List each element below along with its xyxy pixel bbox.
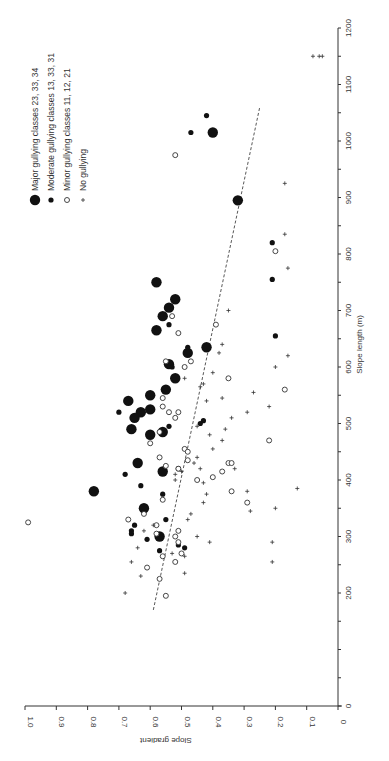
minor-gullying-marker xyxy=(141,511,146,516)
minor-gullying-marker xyxy=(163,359,168,364)
minor-gullying-marker xyxy=(148,441,153,446)
minor-gullying-marker xyxy=(154,531,159,536)
moderate-gullying-marker xyxy=(270,277,275,282)
minor-gullying-marker xyxy=(176,410,181,415)
minor-gullying-marker xyxy=(173,153,178,158)
moderate-gullying-marker xyxy=(204,113,209,118)
no-gullying-marker xyxy=(195,455,199,459)
legend-label: Major gullying classes 23, 33, 34 xyxy=(30,67,40,191)
x-axis-label: Slope length (m) xyxy=(355,315,364,374)
no-gullying-marker xyxy=(286,266,290,270)
minor-gullying-marker xyxy=(157,429,162,434)
minor-gullying-marker xyxy=(176,540,181,545)
x-tick-label: 1200 xyxy=(344,19,353,37)
major-gullying-marker xyxy=(201,342,211,352)
no-gullying-marker xyxy=(189,512,193,516)
major-gullying-marker xyxy=(30,195,40,205)
minor-gullying-marker xyxy=(220,469,225,474)
x-tick-label: 800 xyxy=(344,247,353,261)
moderate-gullying-marker xyxy=(182,545,187,550)
minor-gullying-marker xyxy=(176,466,181,471)
no-gullying-marker xyxy=(233,467,237,471)
x-tick-label: 900 xyxy=(344,190,353,204)
minor-gullying-marker xyxy=(185,458,190,463)
no-gullying-marker xyxy=(173,472,177,476)
legend-label: No gullying xyxy=(78,149,88,191)
minor-gullying-marker xyxy=(182,365,187,370)
x-tick-label: 1000 xyxy=(344,132,353,150)
minor-gullying-marker xyxy=(173,415,178,420)
no-gullying-marker xyxy=(311,54,315,58)
x-tick-label: 700 xyxy=(344,303,353,317)
moderate-gullying-marker xyxy=(273,333,278,338)
no-gullying-marker xyxy=(195,535,199,539)
legend-label: Moderate gullying classes 13, 33, 31 xyxy=(46,53,56,191)
moderate-gullying-marker xyxy=(129,531,134,536)
major-gullying-marker xyxy=(129,413,139,423)
minor-gullying-marker xyxy=(282,387,287,392)
moderate-gullying-marker xyxy=(198,421,203,426)
minor-gullying-marker xyxy=(267,438,272,443)
axes: 0200300400500600700800900100011001200Slo… xyxy=(25,19,364,745)
major-gullying-marker xyxy=(145,430,155,440)
minor-gullying-marker xyxy=(170,314,175,319)
minor-gullying-marker xyxy=(213,322,218,327)
y-tick-label: 0.6 xyxy=(151,716,160,728)
minor-gullying-marker xyxy=(160,554,165,559)
no-gullying-marker xyxy=(220,396,224,400)
no-gullying-marker xyxy=(186,518,190,522)
scatter-chart: 0200300400500600700800900100011001200Slo… xyxy=(0,0,389,761)
no-gullying-marker xyxy=(123,591,127,595)
moderate-gullying-marker xyxy=(185,345,190,350)
y-tick-label: 0.7 xyxy=(120,716,129,728)
y-tick-label: 0.9 xyxy=(57,716,66,728)
major-gullying-marker xyxy=(132,458,142,468)
no-gullying-marker xyxy=(173,478,177,482)
no-gullying-marker xyxy=(220,342,224,346)
y-tick-label: 0.5 xyxy=(183,716,192,728)
no-gullying-marker xyxy=(320,54,324,58)
major-gullying-marker xyxy=(123,396,133,406)
major-gullying-marker xyxy=(170,373,180,383)
minor-gullying-marker xyxy=(210,475,215,480)
minor-gullying-marker xyxy=(163,463,168,468)
no-gullying-marker xyxy=(136,546,140,550)
trend-line xyxy=(153,107,259,610)
no-gullying-marker xyxy=(129,560,133,564)
minor-gullying-marker xyxy=(160,396,165,401)
no-gullying-marker xyxy=(283,232,287,236)
minor-gullying-marker xyxy=(157,455,162,460)
minor-gullying-marker xyxy=(273,249,278,254)
legend: Major gullying classes 23, 33, 34Moderat… xyxy=(30,53,88,205)
no-gullying-marker xyxy=(220,438,224,442)
major-gullying-marker xyxy=(145,404,155,414)
no-gullying-marker xyxy=(251,390,255,394)
x-tick-label: 1100 xyxy=(344,75,353,93)
x-tick-label: 0 xyxy=(344,703,353,708)
y-axis-label: Slope gradient xyxy=(139,736,191,745)
minor-gullying-marker xyxy=(65,198,70,203)
x-tick-label: 300 xyxy=(344,529,353,543)
no-gullying-marker xyxy=(183,571,187,575)
y-tick-label: 0.1 xyxy=(308,716,317,728)
minor-gullying-marker xyxy=(229,461,234,466)
minor-gullying-marker xyxy=(185,449,190,454)
no-gullying-marker xyxy=(170,551,174,555)
no-gullying-marker xyxy=(217,351,221,355)
no-gullying-marker xyxy=(201,382,205,386)
no-gullying-marker xyxy=(267,405,271,409)
x-tick-label: 200 xyxy=(344,586,353,600)
no-gullying-marker xyxy=(81,198,85,202)
no-gullying-marker xyxy=(295,486,299,490)
moderate-gullying-marker xyxy=(170,364,175,369)
minor-gullying-marker xyxy=(226,376,231,381)
minor-gullying-marker xyxy=(126,517,131,522)
minor-gullying-marker xyxy=(145,565,150,570)
no-gullying-marker xyxy=(211,447,215,451)
y-tick-label: 0.3 xyxy=(245,716,254,728)
no-gullying-marker xyxy=(208,433,212,437)
no-gullying-marker xyxy=(230,416,234,420)
minor-gullying-marker xyxy=(188,359,193,364)
y-tick-label: 1.0 xyxy=(26,716,35,728)
major-gullying-marker xyxy=(208,127,218,137)
